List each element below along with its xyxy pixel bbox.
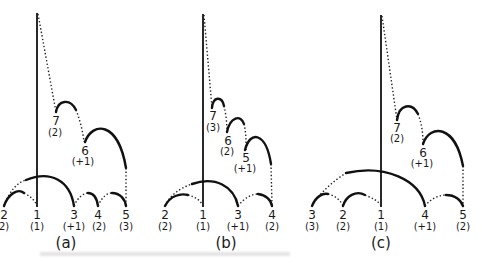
panel-b-arc-7-6-dotted bbox=[224, 106, 227, 132]
node-label: 2 bbox=[339, 208, 347, 222]
panel-caption: (c) bbox=[371, 234, 391, 252]
node-value: (3) bbox=[305, 221, 319, 232]
node-label: 7 bbox=[209, 109, 217, 123]
node-label: 7 bbox=[52, 114, 60, 128]
node-label: 4 bbox=[268, 208, 276, 222]
panel-c-arc-3-2-dotted bbox=[328, 194, 343, 206]
panel-c-arc-4-5-dotted bbox=[425, 195, 446, 206]
node-label: 1 bbox=[377, 208, 385, 222]
panel-c-arc-7-6-dotted bbox=[418, 114, 423, 144]
node-value: (+1) bbox=[63, 221, 86, 232]
panel-caption: (a) bbox=[56, 234, 77, 252]
node-label: 3 bbox=[308, 208, 316, 222]
node-label: 2 bbox=[161, 208, 169, 222]
node-value: (2) bbox=[390, 133, 404, 144]
panel-a-top-dotted-link bbox=[38, 14, 56, 112]
node-value: (2) bbox=[92, 221, 106, 232]
arc-tree-diagram: 7 (2) 6 (+1) 2 2) 1 (1) 3 (+1) 4 (2) 5 (… bbox=[0, 0, 482, 263]
panel-b-arc-7-6-solid bbox=[212, 99, 224, 108]
node-value: (2) bbox=[158, 221, 172, 232]
panel-c-arc-4-5-solid bbox=[446, 195, 463, 206]
node-value: (2) bbox=[456, 221, 470, 232]
faded-caption-line bbox=[40, 252, 290, 256]
panel-c: 7 (2) 6 (+1) 3 (3) 2 (2) 1 (1) 4 (+1) 5 … bbox=[305, 15, 470, 252]
panel-b-arc-2-1-dotted bbox=[188, 195, 203, 206]
node-value: (+1) bbox=[234, 163, 257, 174]
panel-c-arc-2-1-solid bbox=[343, 193, 365, 206]
panel-c-big-arc-dotted bbox=[312, 173, 346, 206]
panel-b-arc-6-5-solid bbox=[227, 118, 244, 132]
panel-b-top-dotted-link bbox=[204, 15, 212, 108]
panel-a: 7 (2) 6 (+1) 2 2) 1 (1) 3 (+1) 4 (2) 5 (… bbox=[0, 13, 133, 252]
node-value: (+1) bbox=[72, 156, 95, 167]
node-value: (+1) bbox=[414, 221, 437, 232]
panel-a-arc-7-6-solid bbox=[56, 102, 76, 112]
panel-a-arc-2-1-solid bbox=[4, 191, 24, 206]
panel-b-arc-2-1-solid bbox=[165, 194, 188, 206]
node-value: (2) bbox=[336, 221, 350, 232]
panel-b-big-arc-solid bbox=[192, 181, 238, 206]
panel-c-arc-3-2-solid bbox=[312, 194, 328, 206]
node-label: 5 bbox=[122, 208, 130, 222]
panel-c-arc-2-1-dotted bbox=[365, 195, 381, 206]
node-value: (1) bbox=[196, 221, 210, 232]
node-value: 2) bbox=[0, 221, 9, 232]
panel-a-arc-7-6-dotted bbox=[76, 110, 84, 142]
node-value: (3) bbox=[206, 122, 220, 133]
node-value: (+1) bbox=[227, 221, 250, 232]
node-label: 1 bbox=[33, 208, 41, 222]
node-value: (2) bbox=[220, 146, 234, 157]
node-label: 2 bbox=[0, 208, 8, 222]
node-value: (2) bbox=[48, 127, 62, 138]
panel-a-arc-4-5-dotted bbox=[98, 193, 112, 206]
panel-a-arc-4-5-solid bbox=[112, 193, 126, 206]
panel-c-big-arc-solid bbox=[346, 170, 425, 206]
panel-b-arc-5-4-dotted bbox=[271, 164, 272, 206]
node-label: 5 bbox=[459, 208, 467, 222]
node-label: 4 bbox=[94, 208, 102, 222]
panel-c-arc-7-6-solid bbox=[397, 106, 418, 120]
panel-a-arc-3-4-solid bbox=[88, 193, 98, 206]
panel-b-arc-3-4-solid bbox=[258, 194, 272, 206]
panel-a-big-arc-solid bbox=[26, 176, 74, 206]
node-value: (+1) bbox=[411, 158, 434, 169]
node-value: (1) bbox=[30, 221, 44, 232]
node-value: (3) bbox=[119, 221, 133, 232]
node-value: (2) bbox=[265, 221, 279, 232]
panel-a-arc-2-1-dotted bbox=[24, 193, 37, 206]
panel-a-arc-3-4-dotted bbox=[74, 193, 88, 206]
node-label: 3 bbox=[70, 208, 78, 222]
panel-b-arc-3-4-dotted bbox=[238, 194, 258, 206]
panel-b: 7 (3) 6 (2) 5 (+1) 2 (2) 1 (1) 3 (+1) 4 … bbox=[158, 14, 279, 252]
panel-caption: (b) bbox=[215, 234, 236, 252]
node-label: 4 bbox=[421, 208, 429, 222]
node-label: 1 bbox=[199, 208, 207, 222]
node-label: 3 bbox=[234, 208, 242, 222]
panel-c-top-dotted-link bbox=[382, 16, 397, 120]
node-value: (1) bbox=[374, 221, 388, 232]
